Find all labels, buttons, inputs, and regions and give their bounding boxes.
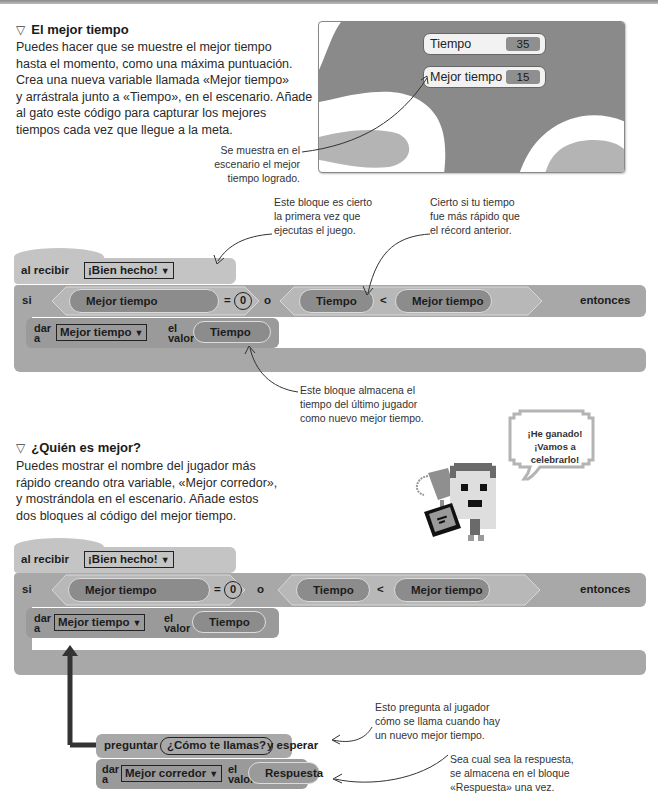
chevron-down-icon: ▼	[135, 328, 144, 338]
monitor-value: 15	[506, 70, 540, 84]
annotation-faster: Cierto si tu tiempo fue más rápido que e…	[430, 195, 520, 237]
game-stage[interactable]: Tiempo 35 Mejor tiempo 15	[318, 21, 625, 173]
annotation-answer: Sea cual sea la respuesta, se almacena e…	[450, 752, 574, 794]
value-input-zero[interactable]: 0	[224, 581, 242, 599]
section-title: ¿Quién es mejor?	[31, 440, 141, 455]
variable-monitor-mejor-tiempo[interactable]: Mejor tiempo 15	[423, 66, 546, 88]
section-heading-who-is-best: ▽ ¿Quién es mejor?	[16, 440, 141, 455]
variable-reporter-mejor-tiempo[interactable]: Mejor tiempo	[394, 578, 490, 602]
when-receive-hat-block[interactable]: al recibir ¡Bien hecho!▼	[14, 547, 236, 573]
annotation-asks: Esto pregunta al jugador cómo se llama c…	[375, 700, 500, 742]
annotation-first-run: Este bloque es cierto la primera vez que…	[274, 195, 372, 237]
variable-reporter-tiempo[interactable]: Tiempo	[296, 578, 370, 602]
section-paragraph: Puedes hacer que se muestre el mejor tie…	[16, 39, 316, 138]
set-variable-block[interactable]: dara Mejor tiempo▼ elvalor Tiempo	[26, 318, 279, 348]
section-heading-best-time: ▽ El mejor tiempo	[16, 22, 129, 37]
variable-reporter-mejor-tiempo[interactable]: Mejor tiempo	[68, 578, 210, 602]
variable-reporter-tiempo[interactable]: Tiempo	[299, 289, 374, 313]
question-input[interactable]: ¿Cómo te llamas?	[160, 737, 273, 755]
page-top-border	[0, 0, 658, 4]
triangle-down-icon: ▽	[16, 441, 25, 455]
if-block-bottom	[14, 348, 646, 372]
chevron-down-icon: ▼	[161, 555, 170, 565]
variable-reporter-mejor-tiempo[interactable]: Mejor tiempo	[69, 289, 219, 313]
value-input-zero[interactable]: 0	[234, 292, 252, 310]
if-block-bottom	[14, 650, 646, 675]
section-paragraph: Puedes mostrar el nombre del jugador más…	[16, 458, 316, 524]
triangle-down-icon: ▽	[16, 23, 25, 37]
set-variable-block[interactable]: dara Mejor corredor▼ elvalor Respuesta	[96, 759, 308, 789]
message-dropdown[interactable]: ¡Bien hecho!▼	[84, 551, 174, 568]
variable-reporter-tiempo[interactable]: Tiempo	[192, 611, 266, 633]
stage-annotation: Se muestra en el escenario el mejor tiem…	[180, 143, 300, 185]
message-dropdown[interactable]: ¡Bien hecho!▼	[84, 262, 174, 279]
answer-reporter[interactable]: Respuesta	[248, 762, 320, 784]
variable-dropdown[interactable]: Mejor tiempo▼	[54, 614, 145, 631]
annotation-stores: Este bloque almacena el tiempo del últim…	[300, 383, 424, 425]
variable-dropdown[interactable]: Mejor corredor▼	[121, 765, 222, 782]
variable-reporter-mejor-tiempo[interactable]: Mejor tiempo	[395, 289, 492, 313]
section-title: El mejor tiempo	[31, 22, 129, 37]
chevron-down-icon: ▼	[133, 618, 142, 628]
chevron-down-icon: ▼	[161, 266, 170, 276]
chevron-down-icon: ▼	[209, 769, 218, 779]
speech-bubble-text: ¡He ganado! ¡Vamos a celebrarlo!	[519, 427, 591, 466]
when-receive-hat-block[interactable]: al recibir ¡Bien hecho!▼	[14, 258, 236, 284]
set-variable-block[interactable]: dara Mejor tiempo▼ elvalor Tiempo	[26, 608, 279, 638]
monitor-value: 35	[506, 37, 540, 51]
variable-dropdown[interactable]: Mejor tiempo▼	[56, 324, 147, 341]
variable-monitor-tiempo[interactable]: Tiempo 35	[423, 33, 546, 55]
ask-and-wait-block[interactable]: preguntar ¿Cómo te llamas? y esperar	[96, 734, 292, 758]
variable-reporter-tiempo[interactable]: Tiempo	[193, 321, 271, 343]
